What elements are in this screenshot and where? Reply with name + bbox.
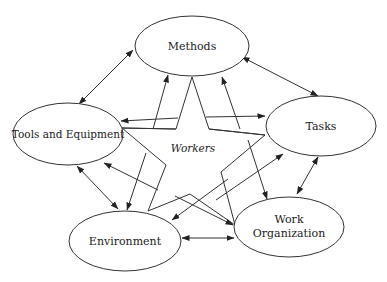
node-work-organization-label-2: Organization <box>253 227 325 240</box>
arrow-workers-methods-right <box>222 77 240 129</box>
edge-methods-tools <box>79 50 133 104</box>
node-tools-label: Tools and Equipment <box>12 128 125 140</box>
arrow-workers-workorg-right <box>248 140 267 199</box>
edge-methods-tasks <box>242 57 318 96</box>
node-work-organization: Work Organization <box>234 197 344 257</box>
node-tasks: Tasks <box>266 96 376 156</box>
arrow-workers-tasks-top <box>206 116 265 117</box>
edge-tools-environment <box>77 166 118 209</box>
arrow-workers-tools-top <box>121 118 178 121</box>
arrow-workers-environment-left <box>127 153 146 210</box>
node-methods-label: Methods <box>168 40 217 53</box>
node-work-organization-label-1: Work <box>274 213 303 226</box>
node-tasks-label: Tasks <box>306 120 337 133</box>
edge-tasks-workorg <box>297 157 318 194</box>
arrow-workers-tools-bottom <box>104 163 158 190</box>
node-environment: Environment <box>69 211 181 271</box>
node-methods: Methods <box>135 16 249 76</box>
node-tools: Tools and Equipment <box>12 103 125 165</box>
workers-label: Workers <box>171 142 216 154</box>
workers-system-diagram: Methods Tasks Tools and Equipment Enviro… <box>0 0 387 282</box>
arrow-workers-methods-left <box>153 75 168 129</box>
node-environment-label: Environment <box>89 235 162 248</box>
